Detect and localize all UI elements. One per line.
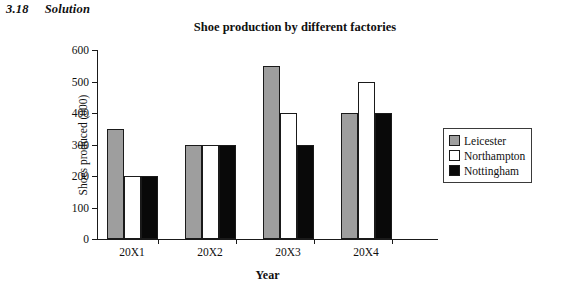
legend-item-label: Leicester bbox=[464, 135, 506, 147]
bar-northampton-20x4[interactable] bbox=[358, 82, 375, 240]
bar-nottingham-20x4[interactable] bbox=[375, 113, 392, 239]
x-tick-label: 20X3 bbox=[275, 246, 301, 258]
legend-swatch-icon bbox=[449, 150, 460, 161]
x-tick-label: 20X2 bbox=[197, 246, 223, 258]
x-axis-tick bbox=[314, 239, 315, 244]
y-tick-mark bbox=[92, 50, 97, 51]
bar-leicester-20x2[interactable] bbox=[185, 145, 202, 240]
y-tick-mark bbox=[92, 239, 97, 240]
bar-northampton-20x2[interactable] bbox=[202, 145, 219, 240]
chart-legend: LeicesterNorthamptonNottingham bbox=[443, 128, 532, 183]
y-tick-mark bbox=[92, 208, 97, 209]
section-number: 3.18 bbox=[6, 2, 29, 16]
x-axis-line bbox=[97, 239, 438, 240]
bar-northampton-20x3[interactable] bbox=[280, 113, 297, 239]
legend-swatch-icon bbox=[449, 165, 460, 176]
y-tick-label: 300 bbox=[55, 139, 89, 151]
bar-nottingham-20x2[interactable] bbox=[219, 145, 236, 240]
bar-group-bars bbox=[341, 50, 392, 239]
x-tick-label: 20X4 bbox=[353, 246, 379, 258]
chart-title: Shoe production by different factories bbox=[130, 20, 460, 35]
bar-group-bars bbox=[263, 50, 314, 239]
section-label: Solution bbox=[45, 2, 90, 16]
x-tick-label: 20X1 bbox=[119, 246, 145, 258]
bar-group-bars bbox=[185, 50, 236, 239]
y-tick-label: 200 bbox=[55, 170, 89, 182]
page-header: 3.18Solution bbox=[6, 2, 90, 17]
y-tick-mark bbox=[92, 176, 97, 177]
x-axis-tick bbox=[158, 239, 159, 244]
y-tick-label: 0 bbox=[55, 233, 89, 245]
bar-leicester-20x4[interactable] bbox=[341, 113, 358, 239]
bar-group-bars bbox=[107, 50, 158, 239]
legend-item-label: Northampton bbox=[464, 150, 525, 162]
x-axis-title: Year bbox=[97, 268, 438, 283]
bar-leicester-20x3[interactable] bbox=[263, 66, 280, 239]
bar-nottingham-20x3[interactable] bbox=[297, 145, 314, 240]
x-axis-tick bbox=[236, 239, 237, 244]
y-tick-label: 600 bbox=[55, 44, 89, 56]
legend-item-leicester[interactable]: Leicester bbox=[449, 133, 525, 148]
bar-leicester-20x1[interactable] bbox=[107, 129, 124, 239]
x-axis-tick bbox=[392, 239, 393, 244]
legend-swatch-icon bbox=[449, 135, 460, 146]
y-tick-mark bbox=[92, 82, 97, 83]
y-axis-line bbox=[97, 50, 98, 240]
legend-item-label: Nottingham bbox=[464, 165, 519, 177]
bar-northampton-20x1[interactable] bbox=[124, 176, 141, 239]
legend-item-northampton[interactable]: Northampton bbox=[449, 148, 525, 163]
y-tick-label: 500 bbox=[55, 76, 89, 88]
bar-chart-plot-area: Shoes produced (000) 0100200300400500600… bbox=[97, 50, 437, 239]
y-tick-mark bbox=[92, 113, 97, 114]
y-tick-label: 100 bbox=[55, 202, 89, 214]
legend-item-nottingham[interactable]: Nottingham bbox=[449, 163, 525, 178]
bar-nottingham-20x1[interactable] bbox=[141, 176, 158, 239]
y-tick-mark bbox=[92, 145, 97, 146]
y-tick-label: 400 bbox=[55, 107, 89, 119]
